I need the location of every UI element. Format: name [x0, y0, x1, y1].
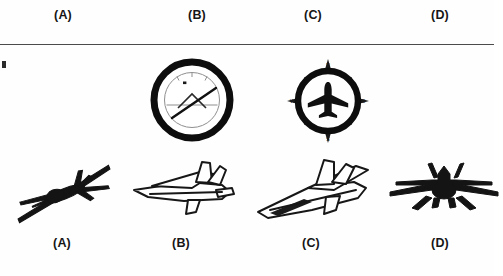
attitude-indicator-gauge-icon	[150, 58, 234, 142]
aircraft-b-icon	[126, 152, 250, 234]
aircraft-c-image[interactable]	[254, 152, 378, 234]
top-option-label-row: (A) (B) (C) (D)	[0, 6, 494, 28]
bottom-option-label-row: (A) (B) (C) (D)	[0, 234, 494, 256]
top-option-d[interactable]: (D)	[420, 6, 460, 24]
aircraft-a-image[interactable]	[6, 152, 130, 234]
compass-north-label: N	[326, 62, 330, 68]
compass-west-label: W	[290, 98, 295, 104]
bottom-option-d[interactable]: (D)	[420, 234, 460, 252]
aircraft-d-icon	[382, 152, 503, 234]
attitude-indicator-cell[interactable]	[142, 56, 242, 148]
bottom-option-c[interactable]: (C)	[291, 234, 331, 252]
aircraft-d-image[interactable]	[382, 152, 503, 234]
bottom-option-a[interactable]: (A)	[42, 234, 82, 252]
bottom-option-b[interactable]: (B)	[161, 234, 201, 252]
aircraft-options-row	[0, 152, 494, 234]
horizontal-divider	[0, 44, 494, 45]
instrument-row: N S E W	[0, 56, 494, 148]
aircraft-c-icon	[254, 152, 378, 234]
top-option-a[interactable]: (A)	[43, 6, 83, 24]
aircraft-b-image[interactable]	[126, 152, 250, 234]
compass-east-label: E	[362, 98, 366, 104]
compass-rose-cell[interactable]: N S E W	[278, 56, 378, 148]
top-option-c[interactable]: (C)	[293, 6, 333, 24]
aircraft-a-icon	[6, 152, 130, 234]
compass-aircraft-silhouette	[308, 82, 348, 118]
compass-south-label: S	[326, 136, 330, 142]
compass-rose-with-aircraft-icon: N S E W	[284, 56, 372, 146]
top-option-b[interactable]: (B)	[177, 6, 217, 24]
